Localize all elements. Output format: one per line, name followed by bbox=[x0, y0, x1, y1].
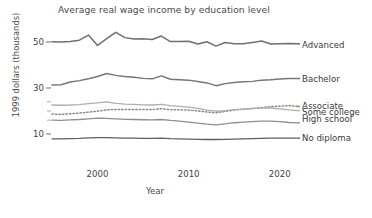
series-line bbox=[52, 118, 298, 125]
x-tick-label: 2000 bbox=[78, 169, 118, 179]
y-tick-label: 10 bbox=[18, 129, 44, 139]
y-tick-label: 50 bbox=[18, 37, 44, 47]
series-label-bachelor: Bachelor bbox=[302, 74, 340, 84]
series-label-no-diploma: No diploma bbox=[302, 133, 351, 143]
x-tick-label: 2020 bbox=[260, 169, 300, 179]
y-tick-label: 30 bbox=[18, 83, 44, 93]
series-line bbox=[52, 106, 298, 115]
wage-income-line-chart: Average real wage income by education le… bbox=[0, 0, 372, 218]
series-line bbox=[52, 32, 298, 46]
series-label-high-school: High school bbox=[302, 114, 352, 124]
x-tick-label: 2010 bbox=[169, 169, 209, 179]
series-line bbox=[52, 74, 298, 86]
series-line bbox=[52, 138, 298, 140]
series-label-advanced: Advanced bbox=[302, 40, 344, 50]
